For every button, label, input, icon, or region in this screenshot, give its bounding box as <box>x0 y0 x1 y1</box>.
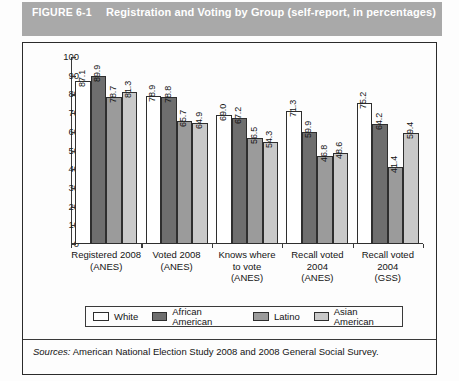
x-axis-category-line: 2004 <box>347 261 429 273</box>
plot-area: 0102030405060708090100 87.189.978.781.37… <box>23 43 438 293</box>
source-divider <box>23 339 436 340</box>
x-axis-tick-mark <box>71 244 72 248</box>
x-axis-category-line: Recall voted <box>347 249 429 261</box>
bar <box>302 132 318 244</box>
bar <box>286 111 302 244</box>
x-axis-category-label: Recall voted2004(GSS) <box>347 249 429 284</box>
bar-value-label: 78.8 <box>164 86 173 103</box>
x-axis-tick-mark <box>141 244 142 248</box>
bar-value-label: 67.2 <box>234 107 243 124</box>
bar <box>232 118 248 244</box>
bar <box>192 123 208 244</box>
bars-layer: 87.189.978.781.378.978.865.764.969.067.2… <box>71 57 423 244</box>
bar <box>177 121 193 244</box>
bar <box>216 115 232 244</box>
legend-item: Asian American <box>314 307 395 327</box>
bar <box>333 153 349 244</box>
bar <box>75 81 91 244</box>
figure-page: FIGURE 6-1 Registration and Voting by Gr… <box>0 0 459 381</box>
bar-value-label: 48.6 <box>335 142 344 159</box>
figure-header: FIGURE 6-1 Registration and Voting by Gr… <box>22 2 442 36</box>
bar <box>357 103 373 244</box>
legend-label: Asian American <box>334 307 395 327</box>
legend-item: African American <box>152 307 239 327</box>
legend-swatch <box>93 312 109 321</box>
source-note: Sources: American National Election Stud… <box>33 346 428 358</box>
bar <box>388 167 404 244</box>
legend-label: Latino <box>274 312 300 322</box>
legend-swatch <box>152 312 167 321</box>
bar <box>372 124 388 244</box>
figure-title: Registration and Voting by Group (self-r… <box>106 6 436 19</box>
bar-value-label: 41.4 <box>390 155 399 172</box>
x-axis-tick-mark <box>423 244 424 248</box>
bar-value-label: 89.9 <box>93 65 102 82</box>
bar <box>403 133 419 244</box>
bar-value-label: 59.4 <box>406 122 415 139</box>
x-axis-tick-mark <box>353 244 354 248</box>
bar <box>106 97 122 244</box>
bar-value-label: 78.9 <box>148 85 157 102</box>
legend-item: Latino <box>253 312 300 322</box>
bar <box>122 92 138 244</box>
bar <box>91 76 107 244</box>
source-text: American National Election Study 2008 an… <box>73 346 379 357</box>
bar <box>263 142 279 244</box>
bar-value-label: 75.2 <box>359 92 368 109</box>
legend-label: White <box>114 312 138 322</box>
figure-number: FIGURE 6-1 <box>22 6 106 19</box>
bar-value-label: 78.7 <box>109 86 118 103</box>
y-axis-tick-mark <box>72 244 76 245</box>
source-label: Sources: <box>33 346 71 357</box>
legend-swatch <box>253 312 269 321</box>
x-axis-tick-mark <box>282 244 283 248</box>
bar <box>317 156 333 244</box>
bar-value-label: 54.3 <box>265 131 274 148</box>
bar-value-label: 59.9 <box>304 121 313 138</box>
legend-label: African American <box>172 307 239 327</box>
legend-item: White <box>93 312 138 322</box>
bar-value-label: 64.9 <box>195 112 204 129</box>
bar-value-label: 87.1 <box>78 70 87 87</box>
legend-swatch <box>314 312 329 321</box>
x-axis-category-line: (GSS) <box>347 272 429 284</box>
bar-value-label: 64.2 <box>375 113 384 130</box>
chart-legend: WhiteAfrican AmericanLatinoAsian America… <box>85 306 403 327</box>
bar <box>146 96 162 244</box>
chart-container: 0102030405060708090100 87.189.978.781.37… <box>22 42 437 375</box>
bar <box>247 138 263 244</box>
x-axis-tick-mark <box>212 244 213 248</box>
bar-value-label: 71.3 <box>289 100 298 117</box>
bar-value-label: 56.5 <box>250 127 259 144</box>
bar-value-label: 81.3 <box>124 81 133 98</box>
bar <box>161 97 177 244</box>
bar-value-label: 69.0 <box>219 104 228 121</box>
bar-value-label: 65.7 <box>179 110 188 127</box>
bar-value-label: 46.8 <box>320 145 329 162</box>
